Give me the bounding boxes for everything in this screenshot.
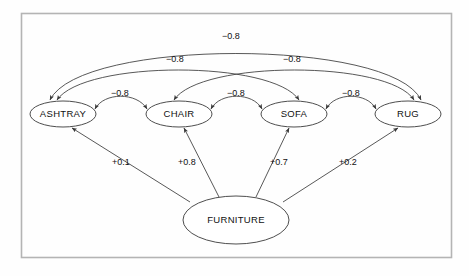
node-sofa[interactable]: SOFA xyxy=(261,101,327,127)
node-furniture[interactable]: FURNITURE xyxy=(183,196,289,244)
edge-label-furniture-sofa: +0.7 xyxy=(270,157,288,167)
edge-label-furniture-chair: +0.8 xyxy=(178,157,196,167)
edge-chair-rug xyxy=(174,70,414,100)
node-ashtray[interactable]: ASHTRAY xyxy=(30,101,96,127)
node-rug-label: RUG xyxy=(397,108,419,119)
node-rug[interactable]: RUG xyxy=(375,101,441,127)
causal-path-diagram: −0.8 −0.8 −0.8 −0.8 −0.8 −0.8 +0.1 +0.8 … xyxy=(0,0,469,276)
diagram-canvas: −0.8 −0.8 −0.8 −0.8 −0.8 −0.8 +0.1 +0.8 … xyxy=(0,0,469,276)
node-ashtray-label: ASHTRAY xyxy=(40,108,87,119)
edge-label-ashtray-rug: −0.8 xyxy=(222,31,240,41)
edge-label-furniture-rug: +0.2 xyxy=(339,157,357,167)
node-sofa-label: SOFA xyxy=(281,108,308,119)
node-chair[interactable]: CHAIR xyxy=(146,101,212,127)
edge-label-sofa-rug: −0.8 xyxy=(342,88,360,98)
edge-label-furniture-ashtray: +0.1 xyxy=(112,157,130,167)
edge-label-ashtray-chair: −0.8 xyxy=(111,88,129,98)
edge-label-chair-sofa: −0.8 xyxy=(227,88,245,98)
edge-label-chair-rug: −0.8 xyxy=(283,54,301,64)
node-chair-label: CHAIR xyxy=(163,108,194,119)
node-furniture-label: FURNITURE xyxy=(207,214,265,225)
edge-furniture-ashtray xyxy=(72,128,190,202)
edge-label-ashtray-sofa: −0.8 xyxy=(166,54,184,64)
